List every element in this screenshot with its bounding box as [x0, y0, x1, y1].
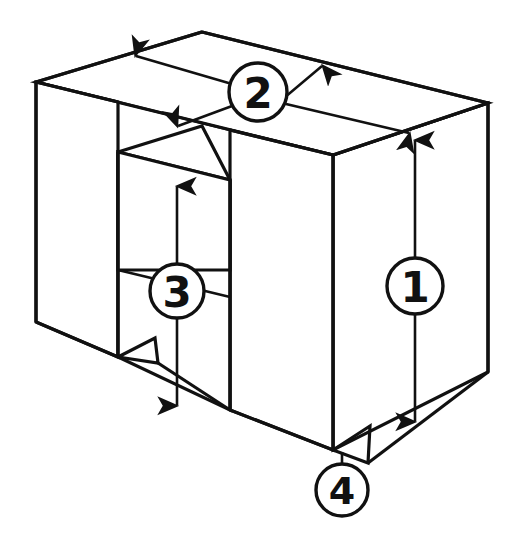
- callout-balloon-2[interactable]: 2: [229, 63, 287, 121]
- block-left-front-face: [36, 82, 118, 357]
- isometric-block-drawing: 2 1 3 4: [0, 0, 521, 548]
- callout-balloon-3[interactable]: 3: [150, 264, 204, 318]
- block-front-face-right-leg: [230, 130, 333, 450]
- callout-1-label: 1: [400, 263, 429, 312]
- callout-4-label: 4: [329, 469, 355, 513]
- callout-balloon-1[interactable]: 1: [387, 258, 443, 314]
- callout-2-label: 2: [243, 69, 272, 118]
- slot-back-inner-wall: [118, 152, 230, 270]
- callout-balloon-4[interactable]: 4: [316, 464, 368, 516]
- callout-3-label: 3: [162, 268, 191, 317]
- diagram-canvas: 2 1 3 4: [0, 0, 521, 548]
